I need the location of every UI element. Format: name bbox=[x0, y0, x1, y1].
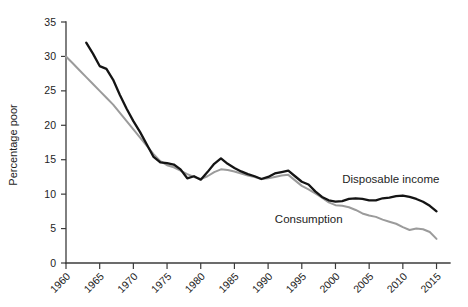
x-tick-label: 1970 bbox=[115, 270, 140, 295]
x-tick-label: 1985 bbox=[216, 270, 241, 295]
y-tick-label: 20 bbox=[44, 119, 56, 131]
x-tick-label: 1990 bbox=[250, 270, 275, 295]
series-line-disposable-income bbox=[86, 43, 436, 212]
chart-canvas: 05101520253035 1960196519701975198019851… bbox=[0, 0, 468, 307]
y-tick-label: 15 bbox=[44, 153, 56, 165]
axes-group bbox=[66, 22, 450, 263]
y-tick-label: 25 bbox=[44, 84, 56, 96]
y-tick-label: 35 bbox=[44, 16, 56, 28]
x-tick-label: 2010 bbox=[384, 270, 409, 295]
x-tick-label: 2000 bbox=[317, 270, 342, 295]
x-tick-label: 1975 bbox=[148, 270, 173, 295]
y-tick-label: 5 bbox=[50, 222, 56, 234]
x-tick-label: 2015 bbox=[418, 270, 443, 295]
series-line-consumption bbox=[66, 56, 437, 238]
y-tick-label: 10 bbox=[44, 188, 56, 200]
poverty-rate-line-chart: 05101520253035 1960196519701975198019851… bbox=[0, 0, 468, 307]
series-label-disposable-income: Disposable income bbox=[342, 173, 439, 185]
tick-marks-group bbox=[61, 22, 437, 269]
y-axis-tick-labels: 05101520253035 bbox=[44, 16, 56, 269]
y-tick-label: 30 bbox=[44, 50, 56, 62]
series-label-consumption: Consumption bbox=[275, 213, 343, 225]
x-tick-label: 1980 bbox=[182, 270, 207, 295]
y-tick-label: 0 bbox=[50, 257, 56, 269]
x-axis-tick-labels: 1960196519701975198019851990199520002005… bbox=[47, 270, 443, 295]
x-tick-label: 1995 bbox=[283, 270, 308, 295]
y-axis-title: Percentage poor bbox=[7, 104, 19, 186]
x-tick-label: 1960 bbox=[47, 270, 72, 295]
x-tick-label: 1965 bbox=[81, 270, 106, 295]
x-tick-label: 2005 bbox=[351, 270, 376, 295]
data-series-group bbox=[66, 43, 437, 239]
